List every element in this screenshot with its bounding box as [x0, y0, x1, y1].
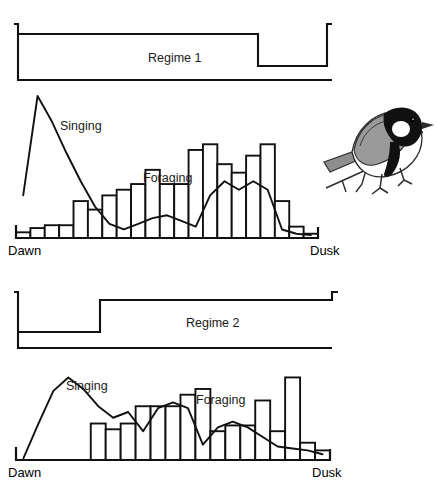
bird-eye [409, 117, 414, 122]
foraging-bar [30, 228, 44, 238]
activity-figure-svg: Regime 1 Singing Foraging Dawn Dusk [0, 0, 436, 481]
foraging-bar [117, 190, 131, 238]
panel-1-dawn-label: Dawn [8, 243, 41, 258]
regime-2-trace-group: Regime 2 [14, 292, 338, 348]
bird-cheek-patch [392, 121, 410, 137]
panel-1-foraging-label: Foraging [143, 171, 192, 185]
foraging-bar [275, 201, 289, 238]
foraging-bar [174, 184, 188, 238]
regime-2-step-trace [14, 292, 338, 348]
foraging-bar [91, 424, 106, 460]
foraging-bar [225, 425, 240, 460]
foraging-bar [121, 424, 136, 460]
regime-1-label: Regime 1 [148, 51, 202, 65]
panel-2-dusk-label: Dusk [312, 465, 342, 480]
panel-2-singing-label: Singing [66, 379, 108, 393]
panel-1-dusk-label: Dusk [310, 243, 340, 258]
foraging-bar [74, 201, 88, 238]
panel-2-foraging-label: Foraging [196, 393, 245, 407]
foraging-bar [246, 156, 260, 238]
panel-2-foraging-bars [91, 377, 330, 460]
panel-2-dawn-label: Dawn [8, 465, 41, 480]
bird-beak [422, 122, 434, 129]
foraging-bar [210, 431, 225, 460]
foraging-bar [180, 395, 195, 460]
regime-1-trace-group: Regime 1 [14, 24, 332, 80]
foraging-bar [160, 184, 174, 238]
foraging-bar [131, 184, 145, 238]
panel-2-chart-group: Singing Foraging Dawn Dusk [8, 377, 342, 480]
foraging-bar [106, 429, 121, 460]
foraging-bar [315, 450, 330, 460]
panel-1-foraging-bars [16, 144, 318, 238]
regime-2-label: Regime 2 [186, 316, 240, 330]
great-tit-bird-illustration [324, 108, 434, 194]
foraging-bar [151, 406, 166, 460]
foraging-bar [45, 225, 59, 238]
figure-root: Regime 1 Singing Foraging Dawn Dusk [0, 0, 436, 481]
foraging-bar [136, 406, 151, 460]
foraging-bar [255, 400, 270, 460]
foraging-bar [217, 164, 231, 238]
foraging-bar [59, 225, 73, 238]
bird-eye-highlight [412, 118, 414, 120]
foraging-bar [166, 406, 181, 460]
foraging-bar [232, 173, 246, 238]
panel-1-singing-label: Singing [60, 119, 102, 133]
panel-1-chart-group: Singing Foraging Dawn Dusk [8, 96, 340, 258]
